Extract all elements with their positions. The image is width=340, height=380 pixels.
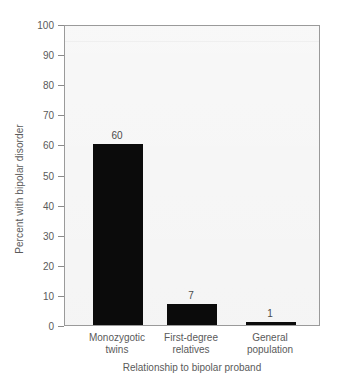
x-axis-category-label-line: relatives [146, 344, 236, 356]
bar-value-label: 60 [92, 130, 142, 141]
y-axis-tick-label: 90 [14, 50, 54, 61]
x-axis-category-label-line: First-degree [146, 332, 236, 344]
x-axis-category-label-line: population [225, 344, 315, 356]
y-axis-tick-label: 60 [14, 140, 54, 151]
y-axis-tick-label: 70 [14, 110, 54, 121]
x-axis-title: Relationship to bipolar proband [64, 362, 320, 373]
y-axis-tick-label: 80 [14, 80, 54, 91]
plot-area [64, 25, 320, 326]
y-axis-tick-label: 40 [14, 200, 54, 211]
y-axis-tick-label: 0 [14, 321, 54, 332]
bar [167, 304, 217, 325]
y-axis-title: Percent with bipolar disorder [6, 26, 32, 352]
bipolar-heritability-bar-chart: Percent with bipolar disorder 0102030405… [0, 0, 340, 380]
x-axis-category-label: Generalpopulation [225, 332, 315, 356]
y-axis-tick-label: 100 [14, 20, 54, 31]
y-axis-tick-label: 10 [14, 290, 54, 301]
y-axis-tick-mark [58, 326, 64, 327]
bar-value-label: 7 [166, 290, 216, 301]
bar-value-label: 1 [245, 308, 295, 319]
x-axis-category-label: First-degreerelatives [146, 332, 236, 356]
y-axis-tick-label: 20 [14, 260, 54, 271]
y-axis-tick-label: 30 [14, 230, 54, 241]
y-axis-tick-label: 50 [14, 170, 54, 181]
bar [246, 322, 296, 325]
x-axis-category-label-line: General [225, 332, 315, 344]
gridline [65, 41, 319, 42]
bar [93, 144, 143, 325]
